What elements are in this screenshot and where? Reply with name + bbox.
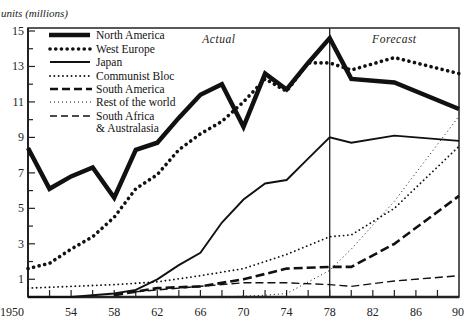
x-tick-label: 90 [452,305,464,319]
y-tick-label: 7 [18,166,24,180]
x-tick-label: 62 [151,305,163,319]
y-tick-label: 9 [18,130,24,144]
legend-label-south-america: South America [96,83,165,95]
series-japan [28,136,459,297]
data-series [28,38,459,297]
y-tick-label: 3 [18,237,24,251]
line-chart: units (millions) 13579111315 19505458626… [0,0,471,324]
y-axis-label: units (millions) [1,7,68,20]
legend-label-west-europe: West Europe [96,43,155,56]
x-tick-label: 74 [281,305,293,319]
x-axis-ticks: 195054586266707478828690 [0,290,464,319]
legend-label-australasia: & Australasia [96,122,159,134]
y-tick-label: 15 [12,24,24,38]
actual-label: Actual [201,33,235,45]
plot-frame [28,28,459,297]
y-tick-label: 1 [18,272,24,286]
series-north-america [28,38,459,198]
x-tick-label: 54 [65,305,77,319]
legend-label-north-america: North America [96,29,165,41]
legend-label-communist-bloc: Communist Bloc [96,70,174,82]
x-tick-label: 1950 [0,305,24,319]
legend-label-japan: Japan [96,56,122,69]
x-tick-label: 70 [238,305,250,319]
y-tick-label: 11 [12,95,24,109]
series-west-europe [28,58,459,269]
y-tick-label: 13 [12,59,24,73]
series-rest-of-the-world [222,116,459,297]
x-tick-label: 58 [108,305,120,319]
y-tick-label: 5 [18,201,24,215]
legend: North America West Europe Japan Communis… [49,29,176,134]
x-tick-label: 78 [324,305,336,319]
legend-label-rest-of-world: Rest of the world [96,96,176,108]
legend-label-south-africa: South Africa [96,110,154,122]
x-tick-label: 86 [410,305,422,319]
series-south-africa-australasia [136,276,459,292]
x-tick-label: 82 [367,305,379,319]
x-tick-label: 66 [194,305,206,319]
forecast-label: Forecast [371,33,417,45]
